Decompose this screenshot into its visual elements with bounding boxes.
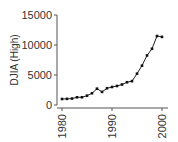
y-tick-label: 10000 bbox=[21, 39, 52, 51]
data-point bbox=[71, 97, 74, 100]
data-point bbox=[76, 96, 79, 99]
data-point bbox=[126, 81, 129, 84]
x-tick-label: 1990 bbox=[106, 114, 118, 138]
data-point bbox=[86, 94, 89, 97]
data-point bbox=[156, 35, 159, 38]
x-tick-label: 1980 bbox=[56, 114, 68, 138]
y-tick-label: 5000 bbox=[28, 69, 52, 81]
data-point bbox=[111, 86, 114, 89]
line-chart: 050001000015000198019902000DJIA (High) bbox=[0, 0, 178, 142]
data-point bbox=[151, 47, 154, 50]
data-point bbox=[121, 83, 124, 86]
data-point bbox=[141, 64, 144, 67]
y-axis-label: DJIA (High) bbox=[9, 34, 20, 85]
data-point bbox=[81, 96, 84, 99]
y-tick-label: 15000 bbox=[21, 9, 52, 21]
data-point bbox=[66, 98, 69, 101]
data-point bbox=[161, 36, 164, 39]
data-point bbox=[91, 92, 94, 95]
data-point bbox=[116, 85, 119, 88]
data-point bbox=[146, 54, 149, 57]
y-tick-label: 0 bbox=[46, 99, 52, 111]
data-point bbox=[136, 72, 139, 75]
data-point bbox=[131, 80, 134, 83]
series-line bbox=[62, 36, 162, 99]
chart: 050001000015000198019902000DJIA (High) bbox=[0, 0, 178, 142]
data-point bbox=[61, 98, 64, 101]
x-tick-label: 2000 bbox=[156, 114, 168, 138]
data-point bbox=[96, 87, 99, 90]
data-point bbox=[106, 87, 109, 90]
data-point bbox=[101, 91, 104, 94]
